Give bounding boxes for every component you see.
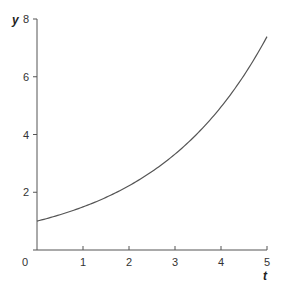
x-axis-label: t bbox=[263, 269, 268, 283]
y-tick-label: 8 bbox=[23, 13, 29, 25]
x-tick-label: 3 bbox=[172, 256, 178, 268]
axes bbox=[33, 19, 267, 250]
x-tick-label: 5 bbox=[264, 256, 270, 268]
y-axis-label: y bbox=[11, 13, 20, 27]
x-tick-label: 2 bbox=[126, 256, 132, 268]
y-tick-label: 2 bbox=[23, 186, 29, 198]
x-tick-label: 1 bbox=[80, 256, 86, 268]
x-tick-label: 0 bbox=[22, 256, 28, 268]
ticks: 0123452468 bbox=[22, 13, 270, 268]
y-tick-label: 6 bbox=[23, 71, 29, 83]
exponential-curve-chart: 0123452468 y t bbox=[0, 0, 283, 290]
curve-line bbox=[37, 37, 267, 222]
data-series bbox=[37, 37, 267, 222]
x-tick-label: 4 bbox=[218, 256, 224, 268]
y-tick-label: 4 bbox=[23, 129, 29, 141]
